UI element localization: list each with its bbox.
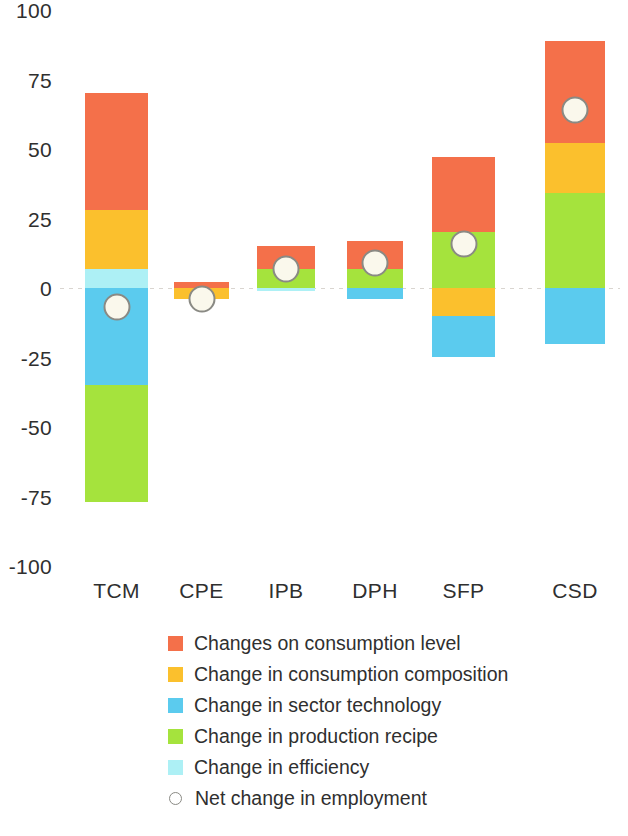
legend-swatch-icon [168,636,183,651]
legend-item: Change in efficiency [168,752,618,783]
bar-segment [432,316,495,358]
legend-label: Net change in employment [195,789,427,809]
legend-item: Change in consumption composition [168,659,618,690]
bar-cpe [174,10,229,566]
x-tick-dph: DPH [352,580,398,601]
legend-label: Change in efficiency [194,758,369,778]
bar-segment [85,93,148,210]
legend-label: Change in consumption composition [194,665,508,685]
bar-segment [85,385,148,502]
bar-csd [545,10,605,566]
net-change-marker [103,294,130,321]
net-change-marker [188,286,215,313]
net-change-marker [562,97,589,124]
bar-ipb [257,10,315,566]
legend-label: Changes on consumption level [194,634,461,654]
bar-segment [85,210,148,268]
bar-segment [545,143,605,193]
y-tick-neg100: -100 [9,556,52,577]
legend-swatch-icon [168,698,183,713]
y-tick-0: 0 [40,278,52,299]
bar-segment [545,193,605,288]
x-tick-csd: CSD [552,580,598,601]
legend-swatch-icon [168,760,183,775]
net-change-marker [362,249,389,276]
bar-segment [347,288,403,299]
net-change-marker [273,255,300,282]
y-tick-neg75: -75 [21,486,52,507]
bar-segment [432,157,495,232]
legend-swatch-icon [168,729,183,744]
x-tick-tcm: TCM [93,580,140,601]
legend-item: Changes on consumption level [168,628,618,659]
legend-swatch-icon [168,667,183,682]
plot-area: 1007550250-25-50-75-100 TCMCPEIPBDPHSFPC… [60,10,620,566]
y-tick-75: 75 [28,69,52,90]
y-tick-neg25: -25 [21,347,52,368]
bar-segment [85,269,148,288]
legend-item: Change in production recipe [168,721,618,752]
y-tick-100: 100 [16,0,52,21]
bar-segment [545,41,605,144]
legend-label: Change in production recipe [194,727,438,747]
legend-item: Net change in employment [168,783,618,814]
y-tick-50: 50 [28,139,52,160]
bar-segment [432,288,495,316]
bar-segment [257,288,315,291]
bar-sfp [432,10,495,566]
legend-label: Change in sector technology [194,696,441,716]
bar-dph [347,10,403,566]
legend-item: Change in sector technology [168,690,618,721]
x-tick-cpe: CPE [179,580,223,601]
y-tick-25: 25 [28,208,52,229]
bar-segment [545,288,605,344]
stacked-bar-chart: 1007550250-25-50-75-100 TCMCPEIPBDPHSFPC… [0,0,628,836]
x-tick-sfp: SFP [442,580,484,601]
net-change-marker [450,230,477,257]
x-tick-ipb: IPB [268,580,303,601]
bar-tcm [85,10,148,566]
legend-circle-icon [169,792,182,805]
y-tick-neg50: -50 [21,417,52,438]
chart-legend: Changes on consumption levelChange in co… [168,628,618,814]
